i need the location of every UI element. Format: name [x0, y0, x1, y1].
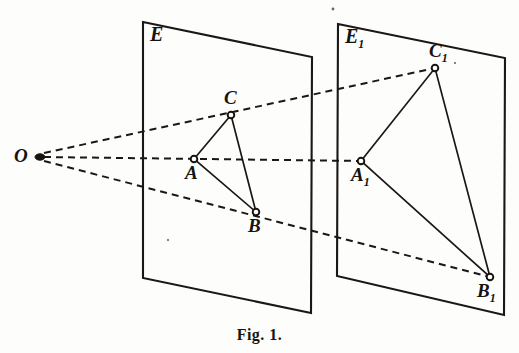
- ray-o-to-b1: [44, 161, 490, 277]
- figure-container: E E1 O C A B C1 A1 B1 Fig. 1.: [0, 0, 519, 353]
- plane-label-e1: E1: [345, 26, 364, 50]
- page-speck-left: [167, 239, 169, 241]
- plane-label-e1-main: E: [345, 25, 358, 47]
- point-label-a1: A1: [351, 165, 369, 188]
- point-label-a1-main: A: [351, 164, 364, 185]
- point-label-c1-subscript: 1: [442, 51, 448, 65]
- plane-e-outline: [143, 22, 312, 313]
- point-label-c1: C1: [429, 41, 447, 64]
- point-label-b: B: [248, 216, 261, 235]
- ray-o-to-c1: [44, 68, 435, 153]
- center-point-o-marker: [35, 154, 45, 160]
- plane-label-e: E: [150, 24, 163, 44]
- vertex-c1: [432, 65, 439, 72]
- vertex-c: [228, 112, 235, 119]
- figure-caption: Fig. 1.: [0, 326, 519, 344]
- point-label-b1-subscript: 1: [490, 291, 496, 305]
- plane-label-e1-subscript: 1: [358, 37, 364, 51]
- point-label-b1: B1: [477, 281, 495, 304]
- point-label-a1-subscript: 1: [364, 175, 370, 189]
- point-label-b1-main: B: [477, 280, 490, 301]
- page-speck-top: [332, 8, 335, 11]
- triangle-a1b1c1: [361, 68, 490, 277]
- point-label-c: C: [224, 88, 237, 107]
- point-label-o: O: [14, 146, 28, 165]
- point-label-a: A: [185, 163, 198, 182]
- ray-o-to-a1: [44, 157, 361, 161]
- page-speck-right: [454, 62, 456, 64]
- point-label-c1-main: C: [429, 40, 442, 61]
- triangle-abc: [194, 115, 256, 212]
